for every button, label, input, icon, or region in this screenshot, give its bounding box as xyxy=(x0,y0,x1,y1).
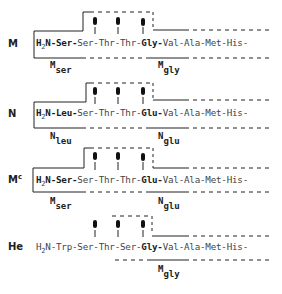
row-label-n: N xyxy=(8,108,16,119)
row-label-mc: Mc xyxy=(8,173,22,185)
label-mc-glu: Nglu xyxy=(158,196,180,211)
label-n-leu: Nleu xyxy=(50,131,72,146)
row-label-m: M xyxy=(8,38,18,49)
label-n-glu: Nglu xyxy=(158,131,180,146)
label-m-ser: Mser xyxy=(50,60,72,75)
row-n-bracket xyxy=(34,83,270,128)
label-m-gly: Mgly xyxy=(158,60,180,75)
label-mc-ser: Mser xyxy=(50,196,72,211)
sequence-mc: H2N-Ser-Ser-Thr-Thr-Glu-Val-Ala-Met-His- xyxy=(36,174,248,188)
label-he-gly: Mgly xyxy=(158,264,180,279)
row-label-he: He xyxy=(8,241,23,252)
sugar-stalks xyxy=(95,27,143,237)
sequence-he: H2N-Trp-Ser-Thr-Ser-Gly-Val-Ala-Met-His- xyxy=(36,241,248,255)
sequence-n: H2N-Leu-Ser-Thr-Thr-Glu-Val-Ala-Met-His- xyxy=(36,107,248,121)
sequence-m: H2N-Ser-Ser-Thr-Thr-Gly-Val-Ala-Met-His- xyxy=(36,37,248,51)
row-m-bracket xyxy=(34,12,270,58)
